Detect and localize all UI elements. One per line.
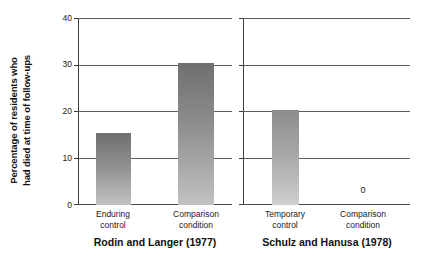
tick-40 <box>239 18 243 19</box>
bar-enduring-control <box>96 133 131 205</box>
y-axis-title-line-1: Percentage of residents who <box>8 23 21 219</box>
x-label-line-1: Comparison <box>317 209 409 220</box>
panel-2-caption: Schulz and Hanusa (1978) <box>262 236 392 248</box>
x-label-line-2: control <box>67 220 159 231</box>
tick-30 <box>74 65 78 66</box>
tick-30 <box>239 65 243 66</box>
bar-chart: Percentage of residents who had died at … <box>0 0 436 262</box>
bar-temporary-control <box>272 110 299 205</box>
y-tick-label-20: 20 <box>48 107 72 116</box>
x-label-line-2: condition <box>150 220 242 231</box>
tick-10 <box>74 158 78 159</box>
tick-0 <box>239 204 243 205</box>
y-axis-title: Percentage of residents who had died at … <box>8 23 33 219</box>
panel-rodin-langer <box>78 18 232 205</box>
tick-0 <box>74 204 78 205</box>
bar-comparison-condition-1 <box>178 63 214 205</box>
gridline-20 <box>243 111 410 112</box>
y-tick-label-30: 30 <box>48 60 72 69</box>
x-label-comparison-condition-1: Comparison condition <box>150 209 242 230</box>
y-axis-title-line-2: had died at time of follow-ups <box>20 23 33 219</box>
gridline-40 <box>78 18 232 19</box>
tick-40 <box>74 18 78 19</box>
x-label-enduring-control: Enduring control <box>67 209 159 230</box>
gridline-30 <box>243 65 410 66</box>
x-label-comparison-condition-2: Comparison condition <box>317 209 409 230</box>
tick-10 <box>239 158 243 159</box>
gridline-10 <box>243 158 410 159</box>
gridline-0 <box>243 204 410 205</box>
x-label-line-1: Comparison <box>150 209 242 220</box>
x-label-line-1: Enduring <box>67 209 159 220</box>
tick-20 <box>239 111 243 112</box>
x-label-line-2: condition <box>317 220 409 231</box>
tick-20 <box>74 111 78 112</box>
panel-1-caption: Rodin and Langer (1977) <box>94 236 217 248</box>
panel-schulz-hanusa: 0 <box>243 18 410 205</box>
bar-value-label-comparison-condition-2: 0 <box>360 185 365 195</box>
y-tick-label-40: 40 <box>48 14 72 23</box>
gridline-40 <box>243 18 410 19</box>
y-tick-label-10: 10 <box>48 154 72 163</box>
